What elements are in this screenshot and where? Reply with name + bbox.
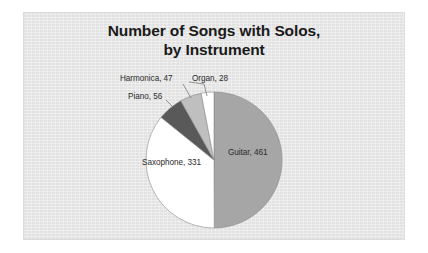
pie-slice-guitar[interactable] [214,92,282,228]
data-label-organ: Organ, 28 [192,74,228,84]
data-label-harmonica: Harmonica, 47 [120,74,173,84]
chart-panel: Number of Songs with Solos, by Instrumen… [23,12,405,240]
leader-line-harmonica [183,84,191,98]
plot-area: Harmonica, 47 Organ, 28 Piano, 56 Saxoph… [23,12,405,240]
data-label-guitar: Guitar, 461 [228,148,268,158]
data-label-piano: Piano, 56 [128,92,162,102]
data-label-saxophone: Saxophone, 331 [142,158,201,168]
pie-chart-graphic [23,12,405,240]
leader-line-piano [166,100,173,107]
